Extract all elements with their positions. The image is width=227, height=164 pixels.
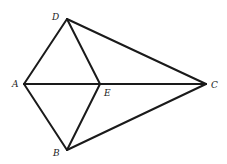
segments-group [24,19,206,150]
label-C: C [211,80,218,90]
label-A: A [11,79,19,89]
segment-AB [24,84,67,150]
label-E: E [103,88,111,98]
label-B: B [52,148,60,158]
segment-DC [67,19,206,84]
segment-DE [67,19,100,84]
segment-AD [24,19,67,84]
geometry-diagram: A B C D E [0,0,227,164]
segment-BC [67,84,206,150]
diagram-svg: A B C D E [0,0,227,164]
segment-BE [67,84,100,150]
label-D: D [51,12,59,22]
